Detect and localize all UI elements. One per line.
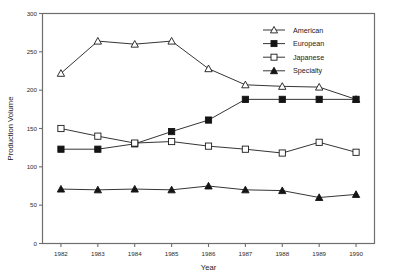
data-point-marker — [58, 125, 64, 131]
x-axis-title: Year — [201, 263, 217, 272]
chart-canvas: 050100150200250300Production Volume19821… — [0, 0, 407, 278]
legend-item-european[interactable]: European — [263, 39, 324, 48]
y-tick-label: 300 — [27, 10, 38, 17]
data-point-marker — [279, 96, 285, 102]
data-point-marker — [58, 146, 64, 152]
x-tick-label: 1984 — [128, 250, 142, 257]
data-point-marker — [132, 140, 138, 146]
data-point-marker — [316, 96, 322, 102]
data-point-marker — [353, 149, 359, 155]
data-point-marker — [95, 146, 101, 152]
data-point-marker — [205, 182, 212, 189]
legend-item-specialty[interactable]: Specialty — [263, 66, 323, 75]
legend: AmericanEuropeanJapaneseSpecialty — [263, 26, 324, 76]
x-tick-label: 1983 — [91, 250, 105, 257]
x-tick-label: 1988 — [275, 250, 289, 257]
x-tick-label: 1986 — [202, 250, 216, 257]
y-tick-label: 100 — [27, 163, 38, 170]
x-tick-label: 1990 — [349, 250, 363, 257]
legend-label: Japanese — [293, 53, 324, 62]
x-tick-label: 1989 — [312, 250, 326, 257]
data-point-marker — [352, 191, 359, 198]
data-point-marker — [271, 41, 277, 47]
data-point-marker — [169, 128, 175, 134]
legend-label: Specialty — [293, 66, 323, 75]
y-axis-title: Production Volume — [6, 97, 15, 161]
legend-item-american[interactable]: American — [263, 26, 323, 35]
plot-frame — [43, 14, 375, 244]
data-point-marker — [168, 37, 175, 44]
y-tick-label: 150 — [27, 125, 38, 132]
data-point-marker — [205, 117, 211, 123]
data-point-marker — [205, 65, 212, 72]
line-chart: 050100150200250300Production Volume19821… — [0, 0, 407, 278]
data-point-marker — [353, 96, 359, 102]
x-tick-label: 1985 — [165, 250, 179, 257]
legend-label: European — [293, 39, 324, 48]
data-point-marker — [94, 37, 101, 44]
series-specialty — [57, 182, 359, 200]
data-point-marker — [271, 54, 277, 60]
data-point-marker — [95, 133, 101, 139]
data-point-marker — [205, 143, 211, 149]
data-point-marker — [279, 150, 285, 156]
data-point-marker — [242, 96, 248, 102]
x-tick-label: 1987 — [239, 250, 253, 257]
x-tick-label: 1982 — [54, 250, 68, 257]
data-point-marker — [242, 146, 248, 152]
y-tick-label: 50 — [30, 201, 37, 208]
y-axis: 050100150200250300 — [27, 10, 43, 247]
legend-label: American — [293, 26, 323, 35]
y-tick-label: 200 — [27, 86, 38, 93]
series-japanese — [58, 125, 359, 156]
y-tick-label: 0 — [34, 240, 38, 247]
legend-item-japanese[interactable]: Japanese — [263, 53, 324, 62]
x-axis: 198219831984198519861987198819891990 — [54, 244, 363, 257]
y-tick-label: 250 — [27, 48, 38, 55]
data-point-marker — [316, 139, 322, 145]
data-point-marker — [169, 138, 175, 144]
